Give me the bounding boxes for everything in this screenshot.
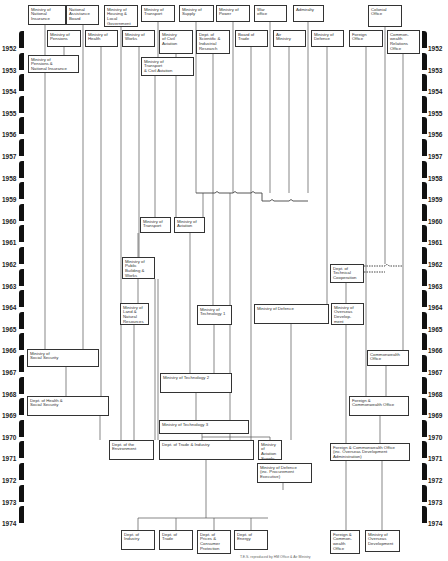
department-box-defence: Ministry of Defence [311, 30, 344, 47]
year-label-left-1972: 1972 [2, 477, 16, 484]
year-marker-left-1960 [19, 204, 24, 221]
department-box-supply: Ministry of Supply [179, 5, 214, 22]
year-marker-right-1969 [422, 398, 427, 415]
year-marker-left-1959 [19, 182, 24, 199]
department-box-mod74: Ministry of Overseas Development [365, 530, 400, 552]
year-marker-right-1954 [422, 74, 427, 91]
year-label-left-1957: 1957 [2, 153, 16, 160]
year-label-right-1961: 1961 [428, 239, 442, 246]
year-label-left-1965: 1965 [2, 326, 16, 333]
year-marker-left-1957 [19, 139, 24, 156]
year-marker-right-1962 [422, 247, 427, 264]
year-label-right-1973: 1973 [428, 499, 442, 506]
year-label-left-1968: 1968 [2, 391, 16, 398]
year-marker-left-1972 [19, 463, 24, 480]
department-box-nab: National Assistance Board [66, 5, 99, 25]
year-label-right-1959: 1959 [428, 196, 442, 203]
department-box-dhss: Dept. of Health & Social Security [27, 396, 109, 416]
department-box-doi: Dept. of Industry [121, 530, 155, 550]
department-box-mod-pe: Ministry of Defence (inc. Procurement Ex… [257, 463, 312, 483]
department-box-civil-aviation: Ministry of Civil Aviation [159, 30, 193, 54]
year-marker-right-1970 [422, 420, 427, 437]
year-marker-left-1963 [19, 269, 24, 286]
year-label-right-1955: 1955 [428, 110, 442, 117]
department-box-war: War office [254, 5, 287, 22]
year-label-left-1961: 1961 [2, 239, 16, 246]
department-box-co66: Commonwealth Office [367, 350, 409, 366]
year-marker-left-1965 [19, 312, 24, 329]
year-label-left-1971: 1971 [2, 455, 16, 462]
department-box-mod64: Ministry of Defence [254, 304, 329, 324]
year-marker-right-1968 [422, 377, 427, 394]
year-marker-left-1974 [19, 506, 24, 523]
year-marker-right-1967 [422, 355, 427, 372]
department-box-mlnr: Ministry of Land & Natural Resources [120, 303, 149, 325]
year-marker-left-1969 [19, 398, 24, 415]
year-marker-right-1964 [422, 290, 427, 307]
department-box-mot59: Ministry of Transport [140, 217, 171, 233]
year-marker-left-1970 [19, 420, 24, 437]
year-marker-left-1973 [19, 485, 24, 502]
year-label-right-1960: 1960 [428, 218, 442, 225]
department-box-doen: Dept. of Energy [234, 530, 268, 550]
year-label-right-1970: 1970 [428, 434, 442, 441]
connector-lines [0, 0, 448, 561]
year-marker-right-1972 [422, 463, 427, 480]
year-marker-left-1955 [19, 96, 24, 113]
year-label-right-1962: 1962 [428, 261, 442, 268]
year-label-right-1965: 1965 [428, 326, 442, 333]
department-box-colonial: Colonial Office [368, 5, 402, 27]
department-box-pensions: Ministry of Pensions [47, 30, 81, 47]
department-box-fco74: Foreign & Common- wealth Office [330, 530, 360, 554]
year-label-right-1963: 1963 [428, 283, 442, 290]
department-box-housing: Ministry of Housing & Local Government [104, 5, 138, 27]
department-box-dot: Dept. of Trade [159, 530, 193, 550]
year-marker-right-1952 [422, 31, 427, 48]
year-label-left-1958: 1958 [2, 175, 16, 182]
year-marker-right-1971 [422, 441, 427, 458]
year-marker-right-1956 [422, 117, 427, 134]
year-marker-left-1962 [19, 247, 24, 264]
department-box-mpbw: Ministry of Public Building & Works [122, 257, 155, 279]
year-marker-right-1973 [422, 485, 427, 502]
year-label-left-1956: 1956 [2, 131, 16, 138]
department-box-mas: Ministry of Aviation Supply [258, 440, 282, 460]
year-marker-left-1964 [19, 290, 24, 307]
year-marker-left-1968 [19, 377, 24, 394]
year-marker-right-1961 [422, 225, 427, 242]
year-marker-left-1966 [19, 333, 24, 350]
department-box-moa59: Ministry of Aviation [174, 217, 205, 233]
year-label-right-1958: 1958 [428, 175, 442, 182]
department-box-tech1: Ministry of Technology 1 [197, 305, 232, 325]
year-label-left-1974: 1974 [2, 520, 16, 527]
year-label-left-1962: 1962 [2, 261, 16, 268]
year-marker-left-1956 [19, 117, 24, 134]
department-box-tech2: Ministry of Technology 2 [160, 373, 232, 393]
year-label-right-1964: 1964 [428, 304, 442, 311]
year-marker-left-1954 [19, 74, 24, 91]
year-marker-left-1958 [19, 161, 24, 178]
year-marker-right-1953 [422, 53, 427, 70]
year-label-left-1960: 1960 [2, 218, 16, 225]
year-label-right-1968: 1968 [428, 391, 442, 398]
year-marker-right-1959 [422, 182, 427, 199]
year-marker-right-1966 [422, 333, 427, 350]
year-label-left-1964: 1964 [2, 304, 16, 311]
department-box-fco68: Foreign & Commonwealth Office [349, 396, 409, 416]
department-box-works: Ministry of Works [122, 30, 155, 47]
department-box-transport: Ministry of Transport [141, 5, 175, 22]
department-box-foreign: Foreign Office [349, 30, 383, 47]
department-box-cro: Common- wealth Relations Office [387, 30, 420, 54]
department-box-mtca: Ministry of Transport & Civil Aviation [141, 57, 194, 76]
department-box-doe: Dept. of the Environment [109, 440, 154, 460]
year-label-right-1957: 1957 [428, 153, 442, 160]
year-marker-left-1952 [19, 31, 24, 48]
year-label-right-1971: 1971 [428, 455, 442, 462]
year-marker-right-1974 [422, 506, 427, 523]
year-label-left-1969: 1969 [2, 412, 16, 419]
department-box-tech3: Ministry of Technology 3 [159, 420, 249, 434]
year-label-left-1954: 1954 [2, 88, 16, 95]
year-marker-left-1967 [19, 355, 24, 372]
department-box-mss: Ministry of Social Security [27, 349, 99, 367]
year-label-right-1974: 1974 [428, 520, 442, 527]
